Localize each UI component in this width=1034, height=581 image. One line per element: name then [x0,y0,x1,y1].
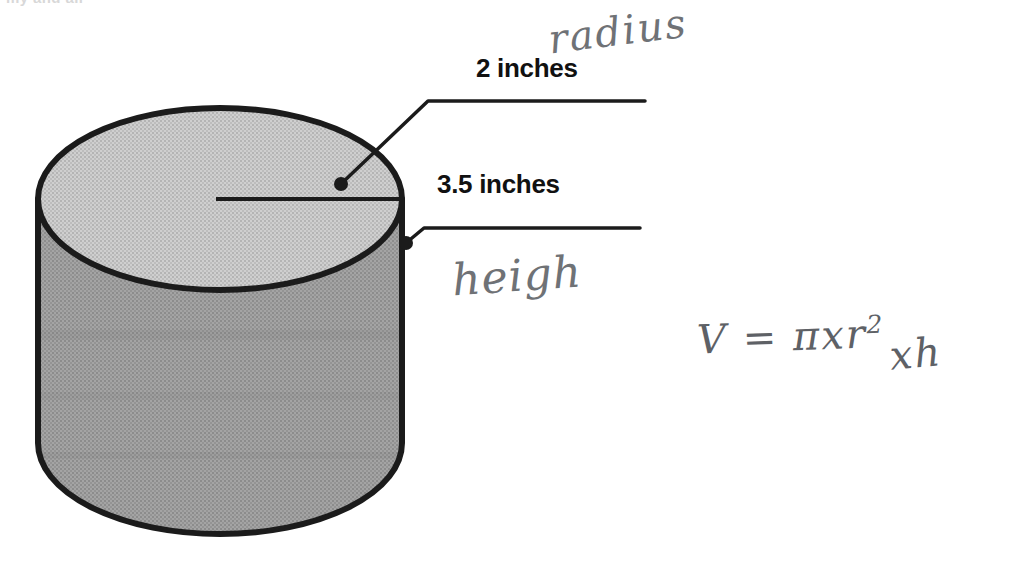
worksheet-page: my and all [0,0,1034,581]
handwritten-volume-formula: V = πxr2xh [696,308,936,363]
height-measurement-label: 3.5 inches [437,169,560,200]
formula-exponent: 2 [866,310,883,340]
formula-variable-r: r [845,311,868,358]
formula-tail: xh [888,329,944,379]
height-leader-line [399,228,640,250]
formula-lhs: V = [696,314,779,363]
formula-times-2: x [888,331,916,379]
handwritten-height-note: heigh [450,246,583,306]
formula-pi: π [792,312,822,359]
formula-variable-h: h [912,329,944,377]
formula-times-1: x [820,311,846,358]
